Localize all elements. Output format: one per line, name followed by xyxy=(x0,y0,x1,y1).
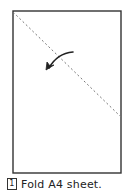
step-instruction: Fold A4 sheet. xyxy=(21,178,102,191)
paper-sheet xyxy=(13,11,121,173)
step-number-badge: 1 xyxy=(7,178,17,190)
step-caption: 1 Fold A4 sheet. xyxy=(7,177,102,191)
origami-diagram xyxy=(0,0,132,192)
